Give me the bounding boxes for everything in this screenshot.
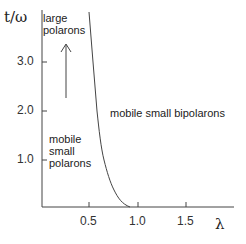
y-axis-label: t/ω — [4, 8, 27, 26]
region-label-large-polarons-1: large — [43, 12, 67, 24]
region-label-bipolarons: mobile small bipolarons — [110, 107, 225, 119]
x-tick-label: 1.0 — [129, 214, 146, 228]
x-tick-label: 0.5 — [80, 214, 97, 228]
x-tick-label: 1.5 — [177, 214, 194, 228]
region-label-small-polarons-1: mobile — [49, 133, 81, 145]
y-tick-label: 1.0 — [17, 152, 34, 166]
region-label-small-polarons-3: polarons — [49, 157, 91, 169]
y-tick-label: 3.0 — [17, 54, 34, 68]
x-axis-label: λ — [215, 215, 225, 233]
region-label-large-polarons-2: polarons — [43, 24, 85, 36]
chart-canvas — [0, 0, 246, 244]
y-tick-label: 2.0 — [17, 103, 34, 117]
region-label-small-polarons-2: small — [49, 145, 75, 157]
